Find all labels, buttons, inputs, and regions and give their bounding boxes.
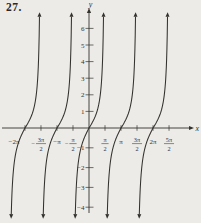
tangent-branch [43,17,71,214]
branch-top-arrowhead [69,12,73,17]
y-axis-arrowhead [87,8,91,13]
tangent-branch [139,17,167,214]
y-tick-label: 4 [81,58,85,66]
branch-bottom-arrowhead [73,214,77,219]
x-tick-label-numerator: 3π [134,136,141,143]
x-tick-label-numerator: 3π [38,136,45,143]
x-axis-label: x [195,124,200,133]
branch-bottom-arrowhead [9,214,13,219]
y-axis-label: y [88,0,93,9]
branch-top-arrowhead [37,12,41,17]
x-tick-label-minus: − [32,140,36,147]
x-tick-label-denominator: 2 [39,145,42,152]
tangent-branch [11,17,39,214]
x-tick-label-denominator: 2 [103,145,106,152]
tangent-function-graph: xy−2π3π2−−ππ2−π2π3π22π5π2654321−1−2−3−4 [0,0,201,223]
branch-bottom-arrowhead [41,214,45,219]
branch-bottom-arrowhead [105,214,109,219]
x-tick-label-minus: − [65,140,69,147]
x-axis-arrowhead [189,126,194,130]
textbook-figure-page: 27. xy−2π3π2−−ππ2−π2π3π22π5π2654321−1−2−… [0,0,201,223]
x-tick-label: π [119,138,123,146]
x-tick-label: −π [53,138,61,146]
y-tick-label: 2 [81,91,85,99]
y-tick-label: 5 [81,42,85,50]
branch-bottom-arrowhead [137,214,141,219]
y-tick-label: −4 [77,204,85,212]
x-tick-label-numerator: π [103,136,107,143]
y-tick-label: 6 [81,25,85,33]
branch-top-arrowhead [101,12,105,17]
y-tick-label: 3 [81,75,85,83]
x-tick-label-numerator: 5π [166,136,173,143]
tangent-branch [107,17,135,214]
y-tick-label: −3 [77,184,85,192]
x-tick-label-denominator: 2 [135,145,138,152]
x-tick-label: 2π [150,138,158,146]
branch-top-arrowhead [134,12,138,17]
x-tick-label-denominator: 2 [71,145,74,152]
x-tick-label-denominator: 2 [167,145,170,152]
y-tick-label: 1 [81,108,85,116]
branch-top-arrowhead [166,12,170,17]
x-tick-label-numerator: π [71,136,75,143]
